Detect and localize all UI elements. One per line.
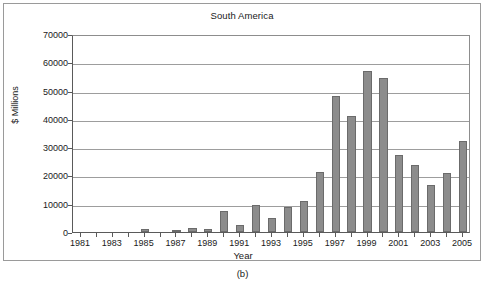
x-tick-label-1995: 1995: [293, 238, 313, 248]
x-tick-label-1999: 1999: [357, 238, 377, 248]
bar-2005: [459, 141, 467, 232]
y-tick-label: 60000: [6, 58, 68, 68]
bar-2002: [411, 165, 419, 232]
bar-1991: [236, 225, 244, 232]
bar-2001: [395, 155, 403, 232]
bar-2000: [379, 78, 387, 232]
y-tick-mark: [68, 233, 72, 234]
x-tick-mark: [207, 233, 208, 237]
x-tick-mark: [446, 233, 447, 237]
x-tick-mark: [367, 233, 368, 237]
y-tick-mark: [68, 35, 72, 36]
bar-1998: [347, 116, 355, 232]
x-axis-title: Year: [4, 250, 482, 261]
bar-1985: [141, 229, 149, 232]
x-tick-label-1983: 1983: [102, 238, 122, 248]
y-tick-label: 0: [6, 228, 68, 238]
x-tick-label-1989: 1989: [197, 238, 217, 248]
y-tick-mark: [68, 176, 72, 177]
y-tick-label: 50000: [6, 87, 68, 97]
x-tick-mark: [255, 233, 256, 237]
x-tick-mark: [398, 233, 399, 237]
chart-frame: South America $ Millions 010000200003000…: [3, 3, 481, 261]
figure-south-america: South America $ Millions 010000200003000…: [0, 0, 485, 290]
x-tick-mark: [191, 233, 192, 237]
plot-area: [72, 35, 470, 233]
x-tick-label-1991: 1991: [229, 238, 249, 248]
bar-1989: [204, 229, 212, 232]
x-tick-mark: [414, 233, 415, 237]
x-tick-label-1981: 1981: [70, 238, 90, 248]
x-tick-mark: [160, 233, 161, 237]
bar-series: [73, 36, 469, 232]
bar-1987: [172, 230, 180, 232]
y-tick-mark: [68, 148, 72, 149]
y-tick-label: 40000: [6, 115, 68, 125]
chart-title: South America: [4, 10, 480, 21]
bar-2004: [443, 173, 451, 232]
x-tick-mark: [319, 233, 320, 237]
x-tick-mark: [96, 233, 97, 237]
bar-1990: [220, 211, 228, 232]
x-tick-mark: [430, 233, 431, 237]
x-tick-label-2005: 2005: [452, 238, 472, 248]
y-tick-label: 10000: [6, 200, 68, 210]
bar-2003: [427, 185, 435, 232]
x-tick-mark: [239, 233, 240, 237]
bar-1994: [284, 207, 292, 232]
x-tick-mark: [271, 233, 272, 237]
x-tick-mark: [112, 233, 113, 237]
bar-1992: [252, 205, 260, 232]
x-tick-label-1993: 1993: [261, 238, 281, 248]
y-axis-tick-labels: 010000200003000040000500006000070000: [4, 35, 68, 233]
x-tick-mark: [462, 233, 463, 237]
x-tick-mark: [223, 233, 224, 237]
y-tick-mark: [68, 205, 72, 206]
x-tick-mark: [351, 233, 352, 237]
figure-caption: (b): [0, 268, 485, 279]
y-tick-mark: [68, 63, 72, 64]
x-tick-label-2003: 2003: [420, 238, 440, 248]
bar-1999: [363, 71, 371, 233]
x-tick-mark: [128, 233, 129, 237]
y-tick-label: 20000: [6, 171, 68, 181]
y-tick-label: 30000: [6, 143, 68, 153]
x-tick-mark: [80, 233, 81, 237]
x-tick-label-1985: 1985: [134, 238, 154, 248]
x-tick-mark: [382, 233, 383, 237]
bar-1997: [332, 96, 340, 232]
x-tick-mark: [335, 233, 336, 237]
x-tick-mark: [303, 233, 304, 237]
bar-1993: [268, 218, 276, 232]
y-tick-label: 70000: [6, 30, 68, 40]
bar-1995: [300, 201, 308, 232]
y-tick-mark: [68, 92, 72, 93]
bar-1996: [316, 172, 324, 232]
x-tick-mark: [144, 233, 145, 237]
y-tick-mark: [68, 120, 72, 121]
bar-1988: [188, 228, 196, 232]
x-tick-mark: [287, 233, 288, 237]
x-tick-mark: [175, 233, 176, 237]
x-tick-label-1987: 1987: [165, 238, 185, 248]
x-tick-label-1997: 1997: [325, 238, 345, 248]
x-tick-label-2001: 2001: [388, 238, 408, 248]
